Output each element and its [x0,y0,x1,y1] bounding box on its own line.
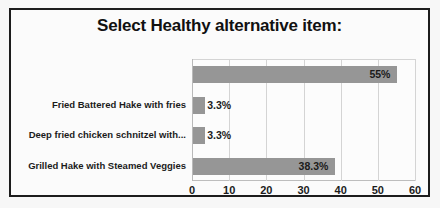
x-axis-tick-label: 10 [223,184,235,196]
bar [193,127,205,144]
bar-value-label: 55% [369,67,390,81]
gridline [415,59,416,181]
x-axis-tick-label: 60 [409,184,421,196]
category-label: Grilled Hake with Steamed Veggies [16,159,192,173]
bar-value-label: 38.3% [299,159,329,173]
bar [193,97,205,114]
x-axis-tick-label: 30 [297,184,309,196]
chart-frame: Select Healthy alternative item: 55%3.3%… [9,8,430,197]
bar-row: 55% [192,59,415,90]
bar [193,66,397,83]
category-label: Deep fried chicken schnitzel with... [16,128,192,142]
bar-row: 3.3%Fried Battered Hake with fries [192,90,415,121]
x-axis-tick-label: 50 [372,184,384,196]
bar-row: 38.3%Grilled Hake with Steamed Veggies [192,151,415,182]
chart-title: Select Healthy alternative item: [11,16,428,36]
category-label: Fried Battered Hake with fries [16,98,192,112]
chart-screenshot: Does your menu offer any Healthy Choices… [0,0,440,208]
bar-value-label: 3.3% [207,98,231,112]
x-axis-tick-label: 40 [335,184,347,196]
x-axis-tick-label: 20 [260,184,272,196]
plot-area: 55%3.3%Fried Battered Hake with fries3.3… [192,59,415,181]
x-axis-tick-labels: 0102030405060 [192,184,415,200]
x-axis-tick-label: 0 [189,184,195,196]
bar-value-label: 3.3% [207,128,231,142]
bar-row: 3.3%Deep fried chicken schnitzel with... [192,120,415,151]
